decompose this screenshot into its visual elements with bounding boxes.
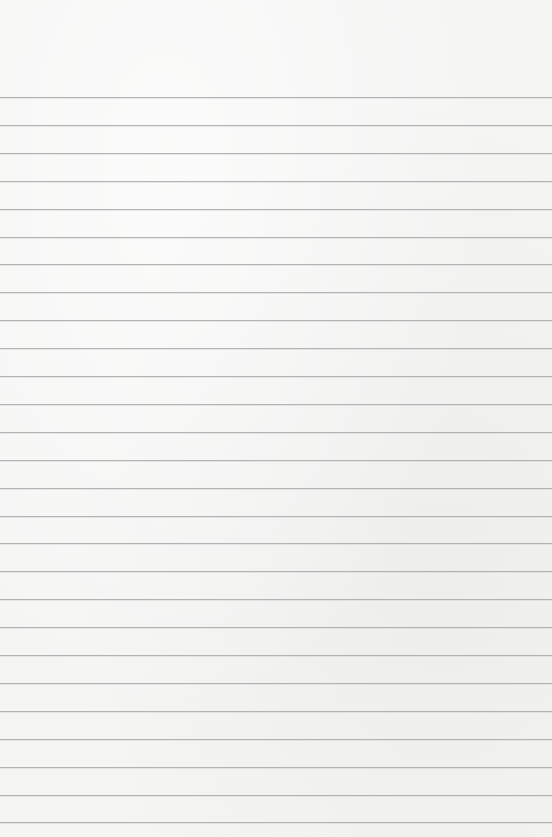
ruled-line — [0, 125, 552, 126]
ruled-line — [0, 627, 552, 628]
ruled-paper-sheet — [0, 0, 552, 837]
ruled-line — [0, 460, 552, 461]
ruled-line — [0, 181, 552, 182]
ruled-line — [0, 348, 552, 349]
ruled-line — [0, 432, 552, 433]
ruled-line — [0, 599, 552, 600]
ruled-line — [0, 571, 552, 572]
ruled-line — [0, 516, 552, 517]
ruled-line — [0, 795, 552, 796]
ruled-line — [0, 739, 552, 740]
ruled-line — [0, 97, 552, 98]
ruled-line — [0, 655, 552, 656]
ruled-line — [0, 153, 552, 154]
ruled-line — [0, 209, 552, 210]
ruled-line — [0, 488, 552, 489]
ruled-line — [0, 711, 552, 712]
ruled-line — [0, 376, 552, 377]
ruled-line — [0, 264, 552, 265]
ruled-line — [0, 292, 552, 293]
ruled-line — [0, 683, 552, 684]
ruled-line — [0, 404, 552, 405]
ruled-line — [0, 320, 552, 321]
ruled-line — [0, 237, 552, 238]
ruled-line — [0, 767, 552, 768]
ruled-line — [0, 822, 552, 823]
ruled-line — [0, 543, 552, 544]
